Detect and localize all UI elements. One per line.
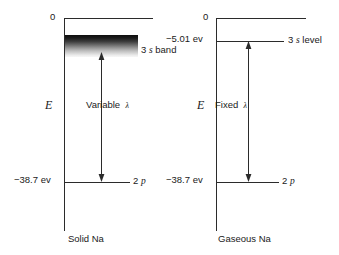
gaseous-transition-label: Fixed λ <box>215 100 247 110</box>
gaseous-2p-label-orbital: p <box>290 176 295 186</box>
energy-level-diagram: 0 3 s band E Variable λ −38.7 ev 2 p <box>0 0 339 255</box>
gaseous-na-caption: Gaseous Na <box>218 233 271 244</box>
gaseous-2p-value-label: −38.7 ev <box>166 175 203 185</box>
gaseous-transition-label-lambda: λ <box>244 101 247 110</box>
gaseous-transition-arrow <box>0 0 339 255</box>
gaseous-2p-label: 2 p <box>282 176 295 187</box>
gaseous-2p-line <box>216 182 279 183</box>
gaseous-transition-label-text: Fixed <box>215 99 238 110</box>
